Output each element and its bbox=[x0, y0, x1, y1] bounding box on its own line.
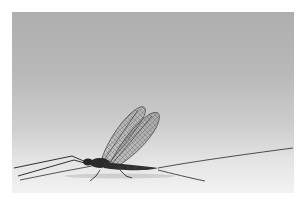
image-frame: Side view of a mayfly resting on a pale … bbox=[0, 0, 304, 199]
mayfly-photo: Side view of a mayfly resting on a pale … bbox=[12, 12, 294, 193]
tail-filaments bbox=[158, 148, 293, 181]
wings bbox=[102, 107, 159, 166]
shadow bbox=[65, 174, 175, 179]
mayfly-illustration bbox=[12, 12, 294, 193]
